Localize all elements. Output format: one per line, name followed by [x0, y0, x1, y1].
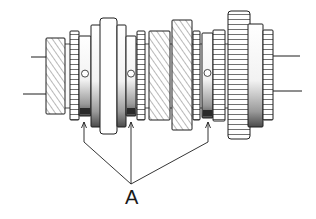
gear-shaft-diagram: A — [0, 0, 316, 219]
gear-shaft-drawing — [0, 0, 316, 219]
sleeve-2 — [117, 25, 126, 127]
gear-hub — [248, 24, 263, 127]
shaft-components — [46, 11, 273, 139]
helical-gear-3 — [172, 20, 192, 130]
synchro-hub-3 — [202, 33, 213, 118]
synchro-hub-2 — [126, 36, 136, 116]
spline-ring — [213, 30, 225, 121]
needle-bearing-1 — [70, 31, 79, 120]
synchro-hub-1 — [79, 36, 91, 116]
callout-leader-line — [131, 142, 208, 184]
callout-label-a: A — [125, 187, 138, 207]
left-helical-gear — [46, 38, 65, 114]
center-collar — [100, 18, 117, 134]
callout-leader-line — [84, 142, 131, 184]
needle-bearing-2 — [137, 31, 145, 120]
right-splined-end — [263, 30, 273, 120]
helical-gear-2 — [149, 31, 170, 120]
large-spur-gear — [228, 11, 250, 139]
needle-bearing-3 — [193, 31, 200, 120]
